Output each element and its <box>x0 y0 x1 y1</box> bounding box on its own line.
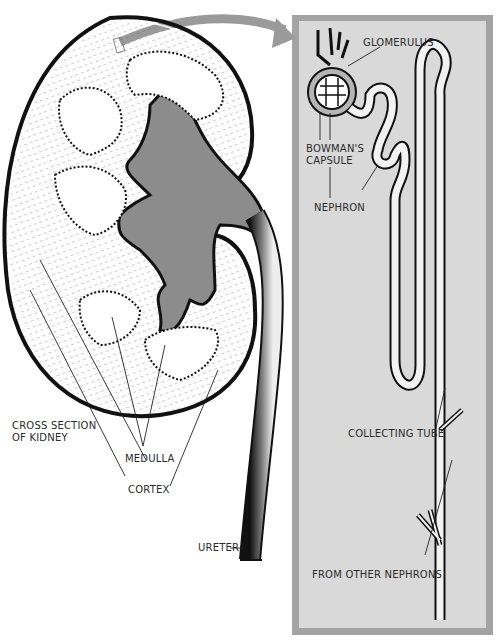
label-bowmans-line2: CAPSULE <box>306 155 364 167</box>
nephron-illustration <box>308 28 462 620</box>
kidney-cross-section <box>4 17 272 560</box>
label-cross-section: CROSS SECTION OF KIDNEY <box>12 420 96 444</box>
label-ureter: URETER <box>198 542 239 554</box>
label-medulla: MEDULLA <box>125 453 175 465</box>
label-glomerulus: GLOMERULUS <box>363 37 434 49</box>
diagram-artwork <box>0 0 498 641</box>
label-from-other-nephrons: FROM OTHER NEPHRONS <box>312 569 442 581</box>
label-cross-section-line1: CROSS SECTION <box>12 420 96 432</box>
label-bowmans-line1: BOWMAN'S <box>306 143 364 155</box>
label-cross-section-line2: OF KIDNEY <box>12 432 96 444</box>
label-collecting-tube: COLLECTING TUBE <box>348 428 444 440</box>
label-cortex: CORTEX <box>128 484 170 496</box>
label-nephron: NEPHRON <box>314 202 365 214</box>
label-bowmans-capsule: BOWMAN'S CAPSULE <box>306 143 364 167</box>
